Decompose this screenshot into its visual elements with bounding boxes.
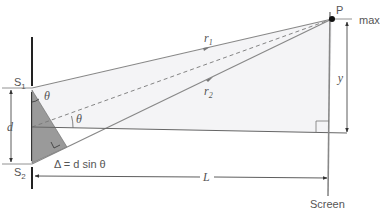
label-y: y	[337, 71, 344, 85]
label-max: max	[359, 14, 380, 26]
label-l: L	[202, 170, 210, 184]
point-p-dot	[329, 16, 335, 22]
label-p: P	[336, 4, 343, 16]
label-d: d	[7, 120, 14, 134]
label-s1: S1	[14, 76, 26, 91]
double-slit-diagram: S1 S2 d θ θ r1 r2 P max y L Δ = d sin θ …	[0, 0, 385, 213]
label-s2: S2	[14, 166, 26, 181]
label-theta-top: θ	[44, 89, 50, 103]
l-dimension-right	[214, 177, 327, 178]
label-r1: r1	[204, 31, 213, 47]
l-dimension-left	[35, 176, 200, 177]
label-screen: Screen	[310, 198, 345, 210]
label-path-difference: Δ = d sin θ	[54, 158, 106, 170]
label-theta-mid: θ	[76, 112, 82, 126]
